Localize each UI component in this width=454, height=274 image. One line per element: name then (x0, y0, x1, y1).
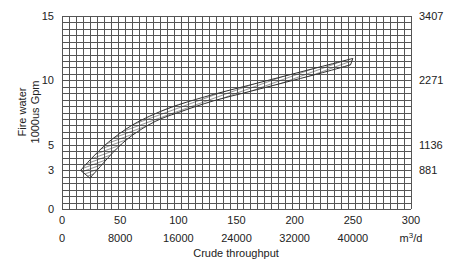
y2-tick-label: 1136 (419, 139, 443, 151)
y2-tick-label: 881 (419, 164, 437, 176)
plot-grid (62, 16, 412, 210)
x-tick-label: 0 (59, 214, 65, 226)
x-axis-secondary-ticks: 0800016000240003200040000m3/d (59, 231, 422, 244)
x-tick-label: 150 (227, 214, 245, 226)
y-axis-label-line2: 1000us Gpm (29, 81, 41, 144)
y-tick-label: 3 (48, 164, 54, 176)
x-tick-label: 200 (285, 214, 303, 226)
x2-tick-label: 8000 (108, 232, 132, 244)
x2-tick-label: 40000 (338, 232, 369, 244)
x-axis-label: Crude throughput (193, 247, 279, 259)
y2-tick-label: 3407 (419, 10, 443, 22)
y-tick-label: 10 (42, 74, 54, 86)
x2-tick-label: 0 (59, 232, 65, 244)
x2-tick-label: 24000 (221, 232, 252, 244)
y-axis-left-ticks: 0351015 (42, 10, 54, 215)
x2-tick-label: 32000 (279, 232, 310, 244)
y-tick-label: 5 (48, 139, 54, 151)
fire-water-chart: 0351015 881113622713407 0501001502002503… (0, 0, 454, 274)
x-tick-label: 100 (169, 214, 187, 226)
x-tick-label: 50 (114, 214, 126, 226)
x-tick-label: 300 (402, 214, 420, 226)
x-tick-label: 250 (344, 214, 362, 226)
y2-tick-label: 2271 (419, 74, 443, 86)
y-axis-label: Fire water 1000us Gpm (16, 81, 41, 144)
y-axis-right-ticks: 881113622713407 (419, 10, 443, 176)
x2-unit-label: m3/d (400, 231, 423, 244)
x-axis-primary-ticks: 050100150200250300 (59, 214, 420, 226)
y-tick-label: 15 (42, 10, 54, 22)
y-axis-label-line1: Fire water (16, 87, 28, 136)
y-tick-label: 0 (48, 203, 54, 215)
x2-tick-label: 16000 (163, 232, 194, 244)
